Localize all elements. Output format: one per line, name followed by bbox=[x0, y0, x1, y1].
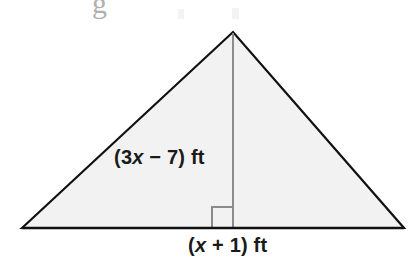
base-label-variable: x bbox=[195, 234, 206, 256]
side-label-coefficient: 3 bbox=[121, 146, 132, 168]
base-label-operator: + bbox=[212, 234, 224, 256]
base-label-constant: 1 bbox=[230, 234, 241, 256]
side-length-label: (3x − 7) ft bbox=[114, 146, 205, 169]
base-label-close-paren: ) bbox=[241, 234, 248, 256]
base-label-open-paren: ( bbox=[188, 234, 195, 256]
triangle-figure bbox=[0, 0, 418, 263]
side-label-open-paren: ( bbox=[114, 146, 121, 168]
side-label-constant: 7 bbox=[167, 146, 178, 168]
side-label-variable: x bbox=[132, 146, 143, 168]
figure-page: g (3x − 7) ft (x + 1) ft bbox=[0, 0, 418, 263]
side-label-operator: − bbox=[149, 146, 161, 168]
side-label-unit: ft bbox=[191, 146, 205, 168]
triangle-shape bbox=[22, 32, 404, 228]
side-label-close-paren: ) bbox=[178, 146, 185, 168]
base-label-unit: ft bbox=[254, 234, 268, 256]
base-length-label: (x + 1) ft bbox=[188, 234, 267, 257]
